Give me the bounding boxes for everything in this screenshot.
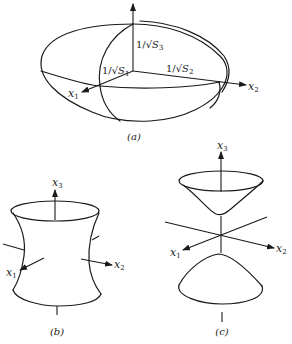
axis-x2-back bbox=[92, 236, 99, 240]
quadric-surfaces-figure: x1 x2 1/√S3 1/√S1 1/√S2 (a) x3 x1 x2 (b) bbox=[0, 0, 292, 344]
caption-a: (a) bbox=[127, 131, 141, 142]
label-semi-axis-s1: 1/√S1 bbox=[102, 65, 129, 78]
label-x2: x2 bbox=[248, 80, 259, 94]
ellipsoid-outline bbox=[41, 24, 227, 121]
label-x2: x2 bbox=[276, 242, 287, 256]
panel-c-hyperboloid-two-sheets: x3 x1 x2 (c) bbox=[165, 139, 287, 337]
bottom-rim bbox=[13, 290, 101, 306]
label-x3: x3 bbox=[52, 176, 63, 190]
label-semi-axis-s3: 1/√S3 bbox=[136, 39, 163, 52]
label-x1: x1 bbox=[6, 266, 17, 280]
right-profile bbox=[89, 213, 101, 294]
label-x1: x1 bbox=[68, 87, 79, 101]
label-x1: x1 bbox=[170, 246, 181, 260]
panel-b-hyperboloid-one-sheet: x3 x1 x2 (b) bbox=[3, 176, 125, 337]
axis-x2 bbox=[81, 259, 112, 265]
label-semi-axis-s2: 1/√S2 bbox=[166, 63, 193, 76]
caption-b: (b) bbox=[50, 326, 64, 337]
label-x3: x3 bbox=[217, 139, 228, 153]
ellipsoid-x2-meridian bbox=[210, 82, 220, 108]
panel-a-ellipsoid: x1 x2 1/√S3 1/√S1 1/√S2 (a) bbox=[41, 4, 259, 142]
label-x2: x2 bbox=[114, 258, 125, 272]
lower-sheet-dome bbox=[179, 254, 262, 286]
axis-x1 bbox=[183, 217, 267, 250]
upper-sheet-bowl bbox=[183, 181, 263, 215]
lower-sheet-rim bbox=[179, 285, 263, 304]
axis-x2 bbox=[165, 222, 274, 248]
axis-x1-back bbox=[3, 244, 24, 250]
caption-c: (c) bbox=[215, 326, 229, 337]
